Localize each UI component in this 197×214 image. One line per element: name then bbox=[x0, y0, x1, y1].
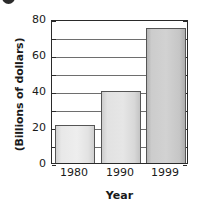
axis-tick bbox=[52, 39, 56, 40]
y-axis-tick-labels: 806040200 bbox=[0, 0, 52, 214]
plot-area bbox=[51, 20, 188, 164]
y-tick-label: 20 bbox=[32, 122, 46, 133]
x-tick-label: 1999 bbox=[142, 167, 188, 179]
y-tick-label: 80 bbox=[32, 14, 46, 25]
axis-tick bbox=[52, 21, 56, 22]
x-axis-title: Year bbox=[51, 189, 188, 202]
x-tick-label: 1980 bbox=[51, 167, 97, 179]
axis-tick bbox=[52, 75, 56, 76]
bar bbox=[101, 91, 141, 163]
y-tick-label: 0 bbox=[39, 158, 46, 169]
bar-chart-figure: (Billions of dollars) 806040200 19801990… bbox=[0, 0, 197, 214]
y-tick-label: 40 bbox=[32, 86, 46, 97]
axis-tick bbox=[52, 93, 56, 94]
bar bbox=[55, 125, 95, 163]
axis-tick bbox=[52, 111, 56, 112]
x-axis-tick-labels: 198019901999 bbox=[51, 167, 188, 187]
axis-tick bbox=[52, 57, 56, 58]
axis-tick bbox=[183, 21, 187, 22]
x-tick-label: 1990 bbox=[97, 167, 143, 179]
bar bbox=[146, 28, 186, 163]
y-tick-label: 60 bbox=[32, 50, 46, 61]
